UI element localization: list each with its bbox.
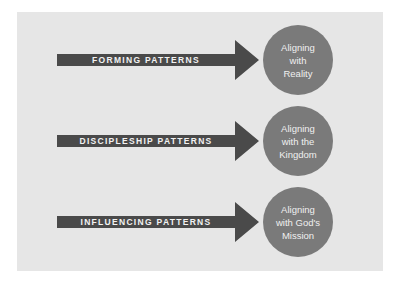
alignment-circle: Aligning with the Kingdom [263, 106, 333, 176]
row-forming: FORMING PATTERNS Aligning with Reality [0, 38, 399, 108]
pattern-label: DISCIPLESHIP PATTERNS [57, 134, 235, 148]
pattern-label: INFLUENCING PATTERNS [57, 215, 235, 229]
row-discipleship: DISCIPLESHIP PATTERNS Aligning with the … [0, 119, 399, 189]
pattern-label: FORMING PATTERNS [57, 53, 235, 67]
alignment-circle: Aligning with Reality [263, 25, 333, 95]
arrow: INFLUENCING PATTERNS [57, 200, 259, 244]
alignment-circle: Aligning with God's Mission [263, 187, 333, 257]
alignment-label: Aligning with the Kingdom [279, 122, 317, 161]
alignment-label: Aligning with Reality [281, 41, 315, 80]
arrow: DISCIPLESHIP PATTERNS [57, 119, 259, 163]
alignment-label: Aligning with God's Mission [276, 203, 320, 242]
arrow: FORMING PATTERNS [57, 38, 259, 82]
row-influencing: INFLUENCING PATTERNS Aligning with God's… [0, 200, 399, 270]
